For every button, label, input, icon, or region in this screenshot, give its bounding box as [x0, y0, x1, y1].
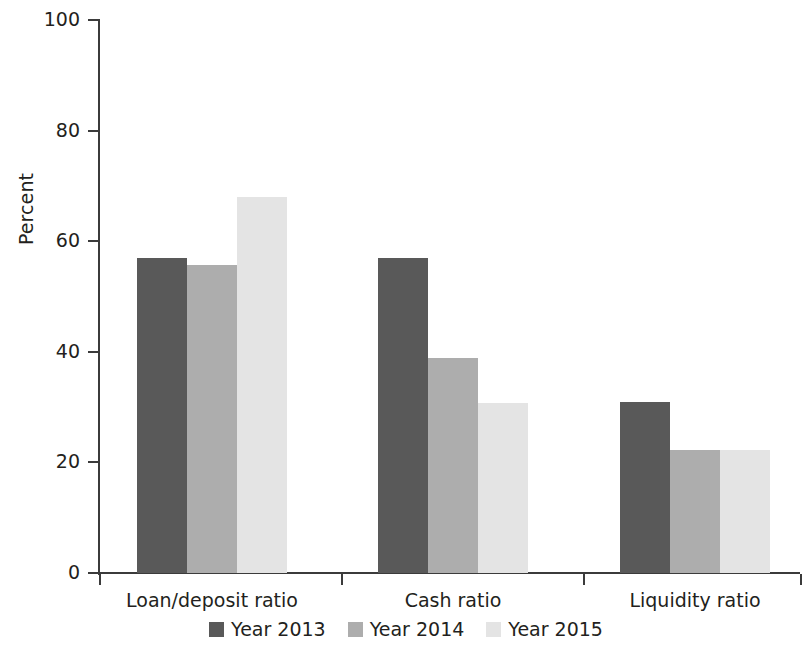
legend-swatch-icon	[209, 622, 224, 637]
x-axis-tick	[341, 574, 343, 585]
bar	[478, 403, 528, 573]
bar	[237, 197, 287, 573]
legend-label: Year 2014	[370, 620, 465, 639]
bar	[720, 450, 770, 573]
legend-swatch-icon	[486, 622, 501, 637]
legend-swatch-icon	[348, 622, 363, 637]
legend-label: Year 2015	[508, 620, 603, 639]
chart-legend: Year 2013Year 2014Year 2015	[0, 620, 812, 639]
bar	[187, 265, 237, 573]
legend-item[interactable]: Year 2015	[486, 620, 603, 639]
bar	[620, 402, 670, 573]
bar	[137, 258, 187, 573]
legend-item[interactable]: Year 2014	[348, 620, 465, 639]
x-axis-tick	[99, 574, 101, 585]
legend-label: Year 2013	[231, 620, 326, 639]
bar	[428, 358, 478, 573]
legend-item[interactable]: Year 2013	[209, 620, 326, 639]
bar-chart: Percent 020406080100 Loan/deposit ratioC…	[0, 0, 812, 646]
x-axis-tick	[583, 574, 585, 585]
bar	[378, 258, 428, 573]
bar	[670, 450, 720, 573]
bars-layer	[0, 0, 812, 573]
x-axis-tick	[800, 574, 802, 585]
x-axis-category-label: Liquidity ratio	[545, 589, 812, 611]
